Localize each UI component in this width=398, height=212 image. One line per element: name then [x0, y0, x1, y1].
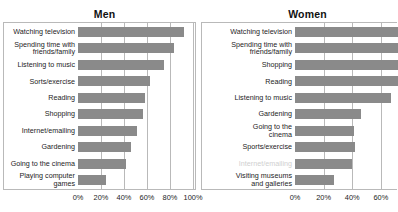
bar-row: Reading [0, 91, 196, 105]
bar-row: Watching television [0, 25, 196, 39]
bar [78, 159, 126, 169]
bar-row: Going to the cinema [199, 124, 398, 138]
chart-title-women: Women [199, 8, 398, 20]
bar-category-label: Watching television [199, 28, 295, 36]
bar-category-label: Gardening [199, 110, 295, 118]
bar [78, 109, 143, 119]
bar-rows-women: Watching televisionSpending time with fr… [199, 22, 398, 190]
bar [295, 93, 391, 103]
bar [78, 27, 184, 37]
bar-category-label: Spending time with friends/family [0, 41, 78, 56]
bar-row: Internet/emailing [0, 124, 196, 138]
bar-track [78, 58, 196, 72]
bar-row: Shopping [199, 58, 398, 72]
bar [78, 60, 164, 70]
bar-track [78, 157, 196, 171]
bar-track [78, 74, 196, 88]
x-axis-women: 0%20%40%60% [295, 191, 398, 205]
bar-row: Playing computer games [0, 173, 196, 187]
bar [295, 27, 398, 37]
bar [295, 175, 334, 185]
bar [78, 142, 131, 152]
x-axis-tick-label: 60% [373, 193, 388, 202]
bar-track [78, 173, 196, 187]
x-axis-tick-label: 80% [163, 193, 178, 202]
bar [78, 175, 106, 185]
bar-track [295, 41, 398, 55]
bar [295, 109, 361, 119]
x-axis-tick-label: 0% [290, 193, 301, 202]
bar-category-label: Watching television [0, 28, 78, 36]
bar-track [295, 58, 398, 72]
bar-category-label: Shopping [0, 110, 78, 118]
bar-row: Gardening [0, 140, 196, 154]
bar-row: Spending time with friends/family [199, 41, 398, 55]
bar-category-label: Visiting museums and galleries [199, 172, 295, 187]
bar-track [295, 157, 398, 171]
chart-panel-women: Women Watching televisionSpending time w… [199, 0, 398, 212]
bar [295, 142, 355, 152]
charts-container: Men Watching televisionSpending time wit… [0, 0, 398, 212]
bar-row: Watching television [199, 25, 398, 39]
bar-row: Listening to music [0, 58, 196, 72]
bar-row: Visiting museums and galleries [199, 173, 398, 187]
bar-track [78, 107, 196, 121]
bar-track [78, 25, 196, 39]
x-axis-men: 0%20%40%60%80%100% [78, 191, 193, 205]
bar-row: Shopping [0, 107, 196, 121]
bar-track [295, 173, 398, 187]
bar-track [78, 140, 196, 154]
bar-category-label: Gardening [0, 143, 78, 151]
x-axis-tick-label: 20% [316, 193, 331, 202]
chart-title-men: Men [0, 8, 199, 20]
chart-panel-men: Men Watching televisionSpending time wit… [0, 0, 199, 212]
bar [295, 126, 354, 136]
bar-track [295, 107, 398, 121]
bar-category-label: Sorts/exercise [0, 78, 78, 86]
bar-category-label: Spending time with friends/family [199, 41, 295, 56]
bar [78, 126, 137, 136]
bar-category-label: Going to the cinema [0, 160, 78, 168]
bar-track [295, 91, 398, 105]
x-axis-tick-label: 20% [94, 193, 109, 202]
bar-category-label: Listening to music [0, 61, 78, 69]
bar-category-label: Reading [199, 78, 295, 86]
bar-row: Listening to music [199, 91, 398, 105]
bar-track [78, 124, 196, 138]
bar [295, 159, 352, 169]
bar-category-label: Internet/emailing [199, 160, 295, 168]
bar-rows-men: Watching televisionSpending time with fr… [0, 22, 196, 190]
bar-category-label: Listening to music [199, 94, 295, 102]
bar-track [78, 41, 196, 55]
x-axis-tick-label: 40% [345, 193, 360, 202]
bar [78, 93, 145, 103]
bar [78, 76, 150, 86]
bar-row: Sorts/exercise [0, 74, 196, 88]
bar-category-label: Sports/exercise [199, 143, 295, 151]
bar-category-label: Shopping [199, 61, 295, 69]
x-axis-tick-label: 0% [73, 193, 84, 202]
x-axis-tick-label: 60% [140, 193, 155, 202]
x-axis-tick-label: 40% [117, 193, 132, 202]
bar-row: Sports/exercise [199, 140, 398, 154]
bar [295, 60, 398, 70]
bar [295, 76, 398, 86]
bar-category-label: Reading [0, 94, 78, 102]
bar-track [295, 124, 398, 138]
bar-track [295, 25, 398, 39]
bar-category-label: Going to the cinema [199, 123, 295, 138]
bar-row: Internet/emailing [199, 157, 398, 171]
bar-category-label: Internet/emailing [0, 127, 78, 135]
bar-track [78, 91, 196, 105]
bar [78, 43, 174, 53]
bar-category-label: Playing computer games [0, 172, 78, 187]
bar-track [295, 140, 398, 154]
bar-track [295, 74, 398, 88]
bar-row: Going to the cinema [0, 157, 196, 171]
bar-row: Gardening [199, 107, 398, 121]
bar [295, 43, 398, 53]
bar-row: Spending time with friends/family [0, 41, 196, 55]
bar-row: Reading [199, 74, 398, 88]
